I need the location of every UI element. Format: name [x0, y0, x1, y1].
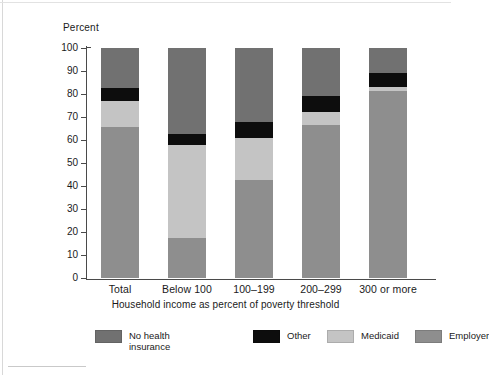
y-axis-tick-label: 30: [8, 204, 78, 214]
bar-segment-other: [101, 88, 139, 101]
y-axis-tick-labels: 0102030405060708090100: [6, 0, 78, 375]
y-axis-tick: [81, 140, 86, 141]
y-axis-tick-label: 0: [8, 273, 78, 283]
y-axis-tick-label: 10: [8, 250, 78, 260]
legend-swatch: [95, 330, 122, 343]
legend-label: No health insurance: [129, 330, 170, 352]
bar-1: [101, 48, 139, 278]
legend-label: Employer: [449, 330, 489, 341]
y-axis-tick: [81, 278, 86, 279]
bar-segment-employer: [101, 127, 139, 278]
legend-label: Other: [287, 330, 311, 341]
bar-segment-noins: [101, 48, 139, 88]
y-axis-tick: [81, 255, 86, 256]
bar-segment-employer: [168, 238, 206, 278]
y-axis-tick-label: 50: [8, 158, 78, 168]
legend-item: No health insurance: [95, 330, 170, 352]
bar-3: [235, 48, 273, 278]
plot-area: [87, 48, 435, 278]
legend-swatch: [327, 330, 354, 343]
page-edge-line: [2, 0, 3, 375]
y-axis-tick: [81, 117, 86, 118]
bar-segment-other: [302, 96, 340, 112]
y-axis-tick-label: 60: [8, 135, 78, 145]
bar-segment-employer: [369, 91, 407, 278]
bar-segment-noins: [369, 48, 407, 73]
y-axis-tick: [81, 186, 86, 187]
bar-segment-noins: [302, 48, 340, 96]
legend-item: Medicaid: [327, 330, 399, 343]
legend-swatch: [253, 330, 280, 343]
y-axis-tick: [81, 71, 86, 72]
legend-label: Medicaid: [361, 330, 399, 341]
y-axis-tick-label: 100: [8, 43, 78, 53]
chart-legend: No health insuranceOtherMedicaidEmployer: [95, 330, 445, 364]
y-axis-tick: [81, 48, 86, 49]
y-axis-tick-label: 90: [8, 66, 78, 76]
bar-segment-medicaid: [168, 145, 206, 238]
bar-segment-medicaid: [101, 101, 139, 127]
bar-segment-noins: [235, 48, 273, 122]
x-axis-line: [86, 279, 436, 280]
y-axis-tick: [81, 209, 86, 210]
x-axis-tick-label: 300 or more: [343, 283, 433, 295]
bar-segment-medicaid: [235, 138, 273, 181]
y-axis-tick-label: 70: [8, 112, 78, 122]
bar-segment-noins: [168, 48, 206, 134]
legend-swatch: [415, 330, 442, 343]
x-axis-title: Household income as percent of poverty t…: [0, 299, 451, 310]
bar-segment-other: [235, 122, 273, 138]
y-axis-tick-label: 40: [8, 181, 78, 191]
y-axis-tick: [81, 163, 86, 164]
bar-4: [302, 48, 340, 278]
bar-segment-employer: [235, 180, 273, 278]
legend-item: Other: [253, 330, 311, 343]
bar-segment-other: [168, 134, 206, 144]
y-axis-tick-label: 80: [8, 89, 78, 99]
bar-segment-medicaid: [302, 112, 340, 125]
legend-item: Employer: [415, 330, 489, 343]
bar-segment-employer: [302, 125, 340, 278]
bar-segment-other: [369, 73, 407, 87]
y-axis-tick: [81, 94, 86, 95]
bar-5: [369, 48, 407, 278]
bar-2: [168, 48, 206, 278]
y-axis-tick: [81, 232, 86, 233]
y-axis-tick-label: 20: [8, 227, 78, 237]
